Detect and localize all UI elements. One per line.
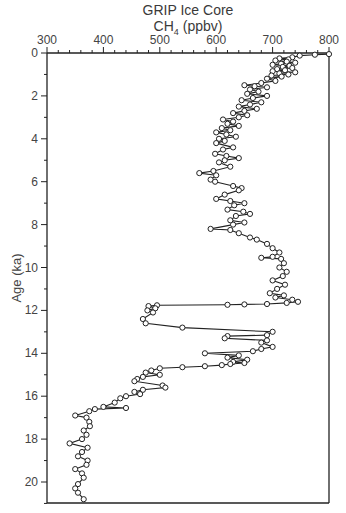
y-axis-label: Age (ka) (9, 253, 24, 302)
data-point-marker (286, 72, 291, 77)
data-point-marker (236, 115, 241, 120)
data-point-marker (236, 104, 241, 109)
data-point-marker (273, 78, 278, 83)
data-point-marker (254, 106, 259, 111)
data-point-marker (145, 308, 150, 313)
data-point-marker (219, 363, 224, 368)
data-point-marker (270, 62, 275, 67)
data-point-marker (157, 372, 162, 377)
data-point-marker (280, 274, 285, 279)
data-point-marker (281, 293, 286, 298)
data-point-marker (225, 302, 230, 307)
y-tick-label: 12 (25, 303, 39, 317)
data-point-marker (259, 346, 264, 351)
y-tick-label: 2 (31, 89, 38, 103)
data-point-marker (197, 171, 202, 176)
data-point-marker (277, 250, 282, 255)
data-point-marker (75, 454, 80, 459)
x-tick-label: 300 (37, 33, 57, 47)
data-point-marker (242, 201, 247, 206)
y-axis-ticks: 02468101214161820 (25, 46, 47, 503)
data-point-marker (140, 374, 145, 379)
data-point-marker (264, 333, 269, 338)
data-point-marker (163, 385, 168, 390)
data-point-marker (259, 80, 264, 85)
data-point-marker (236, 123, 241, 128)
data-point-marker (67, 441, 72, 446)
data-point-marker (239, 98, 244, 103)
data-point-marker (279, 74, 284, 79)
data-point-marker (267, 291, 272, 296)
data-point-marker (225, 355, 230, 360)
data-point-marker (259, 340, 264, 345)
data-point-marker (252, 84, 257, 89)
data-point-marker (264, 241, 269, 246)
data-point-marker (281, 261, 286, 266)
data-point-marker (245, 91, 250, 96)
y-tick-label: 20 (25, 475, 39, 489)
data-point-marker (295, 299, 300, 304)
data-point-marker (73, 467, 78, 472)
data-point-marker (273, 295, 278, 300)
data-point-marker (242, 220, 247, 225)
data-point-marker (231, 222, 236, 227)
data-point-marker (231, 145, 236, 150)
data-point-marker (231, 111, 236, 116)
data-point-marker (264, 301, 269, 306)
data-point-marker (149, 368, 154, 373)
data-point-marker (241, 209, 246, 214)
data-point-marker (277, 265, 282, 270)
data-point-marker (242, 83, 247, 88)
data-point-marker (222, 158, 227, 163)
y-tick-label: 16 (25, 389, 39, 403)
data-point-marker (236, 353, 241, 358)
y-tick-label: 14 (25, 346, 39, 360)
data-point-marker (259, 100, 264, 105)
data-point-marker (216, 160, 221, 165)
y-tick-label: 10 (25, 261, 39, 275)
data-point-marker (254, 237, 259, 242)
data-point-marker (225, 207, 230, 212)
data-point-marker (81, 475, 86, 480)
data-point-marker (236, 188, 241, 193)
data-point-marker (228, 361, 233, 366)
data-point-marker (312, 52, 317, 57)
y-tick-label: 8 (31, 218, 38, 232)
data-point-marker (270, 254, 275, 259)
data-point-marker (228, 198, 233, 203)
data-point-marker (247, 102, 252, 107)
series-line (70, 54, 329, 499)
x-tick-label: 500 (150, 33, 170, 47)
data-point-marker (73, 413, 78, 418)
data-point-marker (284, 300, 289, 305)
data-point-marker (224, 132, 229, 137)
y-tick-label: 4 (31, 132, 38, 146)
data-point-marker (259, 255, 264, 260)
data-point-marker (157, 366, 162, 371)
data-point-marker (264, 76, 269, 81)
data-point-marker (293, 60, 298, 65)
y-tick-label: 0 (31, 46, 38, 60)
data-point-marker (132, 389, 137, 394)
data-point-marker (84, 432, 89, 437)
data-point-marker (256, 89, 261, 94)
data-point-marker (270, 246, 275, 251)
data-point-marker (275, 286, 280, 291)
data-point-marker (236, 231, 241, 236)
data-point-marker (297, 53, 302, 58)
data-point-marker (284, 269, 289, 274)
x-tick-label: 800 (319, 33, 339, 47)
data-point-marker (242, 360, 247, 365)
data-point-marker (79, 449, 84, 454)
data-point-marker (245, 113, 250, 118)
data-point-marker (84, 462, 89, 467)
data-point-marker (270, 344, 275, 349)
data-point-marker (213, 179, 218, 184)
data-point-marker (231, 183, 236, 188)
data-point-marker (222, 192, 227, 197)
y-tick-label: 18 (25, 432, 39, 446)
data-point-marker (214, 141, 219, 146)
y-tick-label: 6 (31, 175, 38, 189)
data-point-marker (222, 138, 227, 143)
data-point-marker (222, 336, 227, 341)
